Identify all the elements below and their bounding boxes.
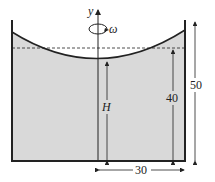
- omega-label: ω: [109, 22, 117, 36]
- rotation-arrow-icon: [89, 24, 109, 34]
- h-label: H: [101, 100, 112, 114]
- radius-label: 30: [135, 163, 147, 177]
- container-height-label: 50: [190, 78, 202, 92]
- rotating-fluid-diagram: y ω H 40 50 30: [0, 0, 215, 182]
- y-axis-label: y: [87, 4, 94, 18]
- fluid-height-label: 40: [166, 91, 178, 105]
